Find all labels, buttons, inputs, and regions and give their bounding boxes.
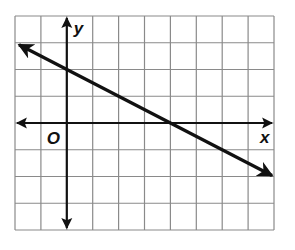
x-axis-label: x (259, 128, 271, 147)
y-axis-label: y (73, 19, 85, 38)
coordinate-graph: x y O (0, 0, 295, 250)
origin-label: O (47, 129, 60, 148)
line-series (19, 45, 272, 176)
data-line (19, 45, 272, 176)
